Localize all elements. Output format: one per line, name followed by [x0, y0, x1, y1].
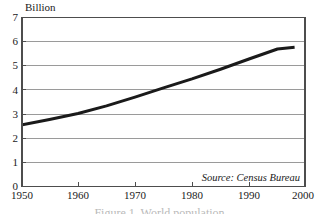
- chart-figure: Billion: [0, 0, 319, 214]
- x-tick-label-1970: 1970: [124, 189, 146, 201]
- x-tick-label-1980: 1980: [181, 189, 203, 201]
- x-tick-label-1990: 1990: [238, 189, 260, 201]
- figure-caption: Figure 1. World population: [0, 207, 319, 214]
- x-axis-tick-labels: 1950 1960 1970 1980 1990 2000: [0, 0, 319, 214]
- x-tick-label-1950: 1950: [11, 189, 33, 201]
- x-tick-label-1960: 1960: [67, 189, 89, 201]
- x-tick-label-2000: 2000: [292, 189, 314, 201]
